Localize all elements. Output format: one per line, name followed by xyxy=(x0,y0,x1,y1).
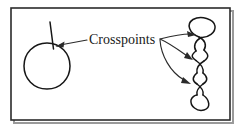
crosspoints-label: Crosspoints xyxy=(89,32,155,47)
crosspoints-figure: Crosspoints xyxy=(0,0,245,133)
figure-border xyxy=(11,8,230,120)
figure-canvas: Crosspoints xyxy=(0,0,245,133)
